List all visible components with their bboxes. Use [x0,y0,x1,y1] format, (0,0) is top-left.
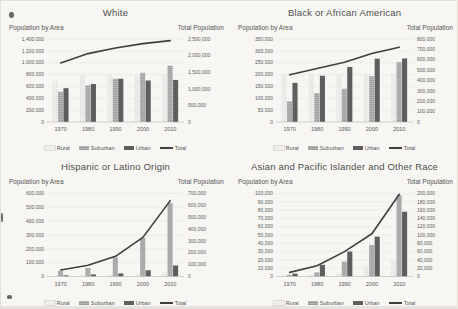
svg-text:1980: 1980 [311,126,323,132]
legend-label-total: Total [175,300,187,306]
svg-text:100,000: 100,000 [26,259,44,265]
legend-label-suburban: Suburban [91,300,115,306]
chart-panel-hispanic-or-latino-origin: Hispanic or Latino Origin Population by … [1,155,230,309]
svg-text:30,000: 30,000 [258,248,274,254]
svg-text:200,000: 200,000 [417,190,435,196]
svg-text:1990: 1990 [109,281,121,287]
svg-text:1,000,000: 1,000,000 [22,59,44,65]
svg-text:400,000: 400,000 [417,77,435,83]
legend-item-total: Total [160,300,187,306]
svg-text:60,000: 60,000 [417,248,433,254]
suburban-swatch-icon [79,146,89,150]
scan-artifact [1,213,3,222]
svg-text:50,000: 50,000 [258,107,274,113]
svg-text:2010: 2010 [164,281,176,287]
svg-text:150,000: 150,000 [255,83,273,89]
rural-swatch-icon [45,146,55,150]
svg-text:200,000: 200,000 [188,249,206,255]
svg-text:200,000: 200,000 [26,107,44,113]
legend-label-total: Total [175,145,187,151]
legend: Rural Suburban Urban Total [230,300,458,306]
legend-item-urban: Urban [353,300,380,306]
svg-text:300,000: 300,000 [26,232,44,238]
svg-text:40,000: 40,000 [258,240,274,246]
svg-text:0: 0 [417,119,420,125]
svg-text:40,000: 40,000 [417,257,433,263]
legend-item-urban: Urban [124,300,151,306]
legend-item-total: Total [389,300,416,306]
legend-label-total: Total [404,300,416,306]
svg-text:0: 0 [270,273,273,279]
scan-artifact [9,12,14,18]
legend-item-urban: Urban [124,145,151,151]
svg-text:100,000: 100,000 [255,95,273,101]
legend-label-suburban: Suburban [320,300,344,306]
svg-text:200,000: 200,000 [417,98,435,104]
legend-label-rural: Rural [57,300,70,306]
svg-text:800,000: 800,000 [417,36,435,42]
svg-text:1970: 1970 [55,126,67,132]
legend-item-suburban: Suburban [308,145,344,151]
svg-text:1980: 1980 [82,126,94,132]
svg-text:1,200,000: 1,200,000 [22,48,44,54]
svg-text:600,000: 600,000 [26,83,44,89]
plot-area: 0100,000200,000300,000400,000500,000600,… [1,155,230,309]
suburban-swatch-icon [308,301,318,305]
svg-text:300,000: 300,000 [188,238,206,244]
suburban-swatch-icon [79,301,89,305]
svg-text:100,000: 100,000 [255,190,273,196]
plot-area: 0200,000400,000600,000800,0001,000,0001,… [1,1,230,155]
total-line-swatch-icon [160,147,173,149]
legend-label-urban: Urban [136,145,151,151]
svg-text:1970: 1970 [284,281,296,287]
svg-text:90,000: 90,000 [258,199,274,205]
svg-text:600,000: 600,000 [188,202,206,208]
legend-item-total: Total [389,145,416,151]
svg-text:500,000: 500,000 [188,102,206,108]
plot-svg: 010,00020,00030,00040,00050,00060,00070,… [230,155,458,309]
svg-text:60,000: 60,000 [258,223,274,229]
svg-text:600,000: 600,000 [26,190,44,196]
svg-text:400,000: 400,000 [188,226,206,232]
svg-text:80,000: 80,000 [417,240,433,246]
plot-area: 050,000100,000150,000200,000250,000300,0… [230,1,458,155]
svg-text:160,000: 160,000 [417,207,435,213]
legend: Rural Suburban Urban Total [1,145,230,151]
svg-text:70,000: 70,000 [258,215,274,221]
total-line-swatch-icon [389,302,402,304]
legend-item-urban: Urban [353,145,380,151]
urban-swatch-icon [124,146,134,150]
legend-label-urban: Urban [365,300,380,306]
svg-text:400,000: 400,000 [26,95,44,101]
legend-label-rural: Rural [286,145,299,151]
legend-label-urban: Urban [136,300,151,306]
svg-text:1970: 1970 [55,281,67,287]
svg-text:500,000: 500,000 [26,204,44,210]
svg-text:1980: 1980 [311,281,323,287]
legend-label-suburban: Suburban [91,145,115,151]
svg-text:600,000: 600,000 [417,56,435,62]
svg-text:20,000: 20,000 [417,265,433,271]
svg-text:1,000,000: 1,000,000 [188,86,210,92]
svg-text:140,000: 140,000 [417,215,435,221]
plot-svg: 0200,000400,000600,000800,0001,000,0001,… [1,1,230,155]
svg-text:2,500,000: 2,500,000 [188,36,210,42]
svg-text:1990: 1990 [338,126,350,132]
svg-text:0: 0 [188,119,191,125]
legend-label-total: Total [404,145,416,151]
legend-item-rural: Rural [274,145,299,151]
svg-text:2010: 2010 [393,281,405,287]
svg-text:2010: 2010 [393,126,405,132]
svg-text:1990: 1990 [338,281,350,287]
svg-text:300,000: 300,000 [417,88,435,94]
chart-panel-black-or-african-american: Black or African American Population by … [230,1,458,155]
svg-text:1990: 1990 [109,126,121,132]
svg-text:0: 0 [41,273,44,279]
svg-text:200,000: 200,000 [255,71,273,77]
svg-text:1,400,000: 1,400,000 [22,36,44,42]
chart-panel-asian-pacific-islander-other-race: Asian and Pacific Islander and Other Rac… [230,155,458,309]
legend-item-rural: Rural [45,300,70,306]
svg-text:500,000: 500,000 [188,214,206,220]
svg-text:350,000: 350,000 [255,36,273,42]
svg-text:20,000: 20,000 [258,257,274,263]
